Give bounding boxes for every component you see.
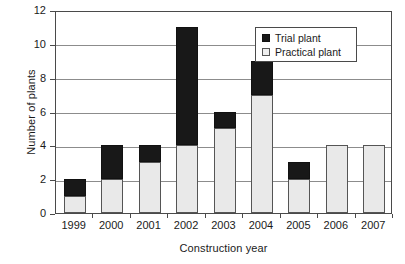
gridline	[56, 79, 391, 80]
bar-segment-practical[interactable]	[288, 179, 310, 213]
bar-segment-trial[interactable]	[101, 145, 123, 179]
bar-segment-practical[interactable]	[101, 179, 123, 213]
y-tick-label: 0	[0, 208, 46, 219]
y-tick-label: 4	[0, 140, 46, 151]
x-tick-label: 2007	[351, 220, 395, 231]
y-tick-mark	[50, 214, 55, 215]
stacked-bar-chart: Number of plants 024681012 1999200020012…	[0, 0, 405, 264]
bar-segment-practical[interactable]	[251, 95, 273, 213]
bar-segment-trial[interactable]	[288, 162, 310, 179]
y-tick-label: 8	[0, 73, 46, 84]
x-tick-mark	[355, 214, 356, 218]
bar-segment-trial[interactable]	[251, 61, 273, 95]
legend-item-practical: Practical plant	[262, 45, 356, 59]
bar-segment-practical[interactable]	[326, 145, 348, 213]
x-tick-mark	[92, 214, 93, 218]
x-axis-title: Construction year	[55, 242, 392, 254]
bar-segment-practical[interactable]	[214, 128, 236, 213]
chart-legend: Trial plant Practical plant	[255, 27, 357, 62]
legend-label-trial: Trial plant	[275, 33, 321, 44]
x-tick-mark	[280, 214, 281, 218]
x-tick-mark	[392, 214, 393, 218]
trial-swatch-icon	[262, 34, 270, 42]
x-tick-mark	[130, 214, 131, 218]
bar-segment-trial[interactable]	[214, 112, 236, 129]
x-tick-mark	[317, 214, 318, 218]
y-tick-label: 6	[0, 107, 46, 118]
bar-segment-practical[interactable]	[176, 145, 198, 213]
legend-item-trial: Trial plant	[262, 31, 356, 45]
bar-segment-trial[interactable]	[139, 145, 161, 162]
legend-label-practical: Practical plant	[275, 47, 341, 58]
x-tick-mark	[205, 214, 206, 218]
x-tick-mark	[242, 214, 243, 218]
y-tick-label: 2	[0, 174, 46, 185]
y-tick-label: 12	[0, 5, 46, 16]
bar-segment-trial[interactable]	[176, 27, 198, 145]
bar-segment-trial[interactable]	[64, 179, 86, 196]
y-tick-label: 10	[0, 39, 46, 50]
bar-segment-practical[interactable]	[363, 145, 385, 213]
bar-segment-practical[interactable]	[64, 196, 86, 213]
practical-swatch-icon	[262, 48, 270, 56]
bar-segment-practical[interactable]	[139, 162, 161, 213]
x-tick-mark	[167, 214, 168, 218]
